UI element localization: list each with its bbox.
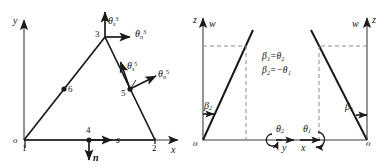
node-label-5: 5 [121, 89, 126, 98]
y-rotation-axis-label: y [282, 143, 286, 153]
theta-n-5-arrow [130, 76, 156, 89]
theta-s-3-label: θs3 [108, 16, 118, 27]
node-label-4: 4 [86, 126, 91, 135]
right-left-w-label: w [209, 19, 216, 29]
right-right-axes [289, 18, 367, 140]
beta-1-label: β1 [345, 102, 353, 113]
theta-n-3-label: θn3 [135, 29, 146, 40]
left-y-axis-label: y [13, 16, 17, 26]
right-right-w-label: w [352, 19, 359, 29]
beta-2-label: β2 [204, 101, 212, 112]
equation-beta2: β₂=−θ₁ [262, 66, 291, 76]
node-label-3: 3 [95, 30, 100, 39]
theta-n-5-label: θn5 [158, 69, 169, 80]
node-label-1: 1 [22, 144, 27, 153]
left-origin-label: o [13, 136, 18, 145]
local-n-label: n [93, 153, 99, 163]
node-label-6: 6 [68, 85, 73, 94]
theta-s-5-label: θs5 [127, 61, 137, 72]
right-right-origin-label: o [366, 139, 371, 148]
node-dot-6 [61, 86, 66, 91]
x-rotation-axis-label: x [301, 143, 305, 153]
right-left-axes [203, 18, 281, 140]
theta-2-label: θ2 [276, 124, 284, 135]
figure-root: y x o 1 2 3 4 5 6 s n θs3 θn3 θs5 θn5 z … [0, 0, 385, 167]
left-x-axis-label: x [171, 145, 175, 155]
right-right-z-label: z [372, 15, 376, 25]
node-label-2: 2 [152, 144, 157, 153]
theta-1-label: θ1 [303, 124, 311, 135]
equation-beta1: β₁=θ₂ [262, 52, 284, 62]
right-left-z-label: z [193, 15, 197, 25]
local-s-label: s [116, 135, 120, 145]
right-left-origin-label: o [193, 139, 198, 148]
